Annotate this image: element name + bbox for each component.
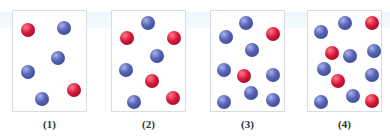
blue-particle [127, 95, 141, 109]
red-particle [365, 16, 379, 30]
panel-label: (4) [307, 118, 382, 130]
red-particle [325, 46, 339, 60]
blue-particle [51, 51, 65, 65]
panel-label: (3) [210, 118, 285, 130]
red-particle [365, 94, 379, 108]
blue-particle [314, 25, 328, 39]
red-particle [21, 23, 35, 37]
blue-particle [367, 44, 381, 58]
red-particle [167, 31, 181, 45]
blue-particle [219, 30, 233, 44]
blue-particle [245, 43, 259, 57]
blue-particle [217, 95, 231, 109]
blue-particle [266, 93, 280, 107]
panel-label: (1) [12, 118, 87, 130]
blue-particle [338, 16, 352, 30]
blue-particle [266, 68, 280, 82]
blue-particle [35, 92, 49, 106]
panel-1 [12, 10, 87, 112]
blue-particle [365, 68, 379, 82]
blue-particle [239, 16, 253, 30]
blue-particle [217, 63, 231, 77]
blue-particle [317, 62, 331, 76]
blue-particle [119, 63, 133, 77]
red-particle [237, 69, 251, 83]
panel-4 [307, 10, 382, 112]
red-particle [166, 91, 180, 105]
red-particle [266, 27, 280, 41]
panel-label: (2) [111, 118, 186, 130]
red-particle [120, 31, 134, 45]
red-particle [331, 74, 345, 88]
blue-particle [314, 95, 328, 109]
blue-particle [57, 21, 71, 35]
blue-particle [346, 89, 360, 103]
blue-particle [141, 16, 155, 30]
blue-particle [244, 86, 258, 100]
blue-particle [150, 49, 164, 63]
blue-particle [21, 65, 35, 79]
red-particle [67, 83, 81, 97]
red-particle [145, 74, 159, 88]
blue-particle [343, 49, 357, 63]
panel-3 [210, 10, 285, 112]
panel-2 [111, 10, 186, 112]
